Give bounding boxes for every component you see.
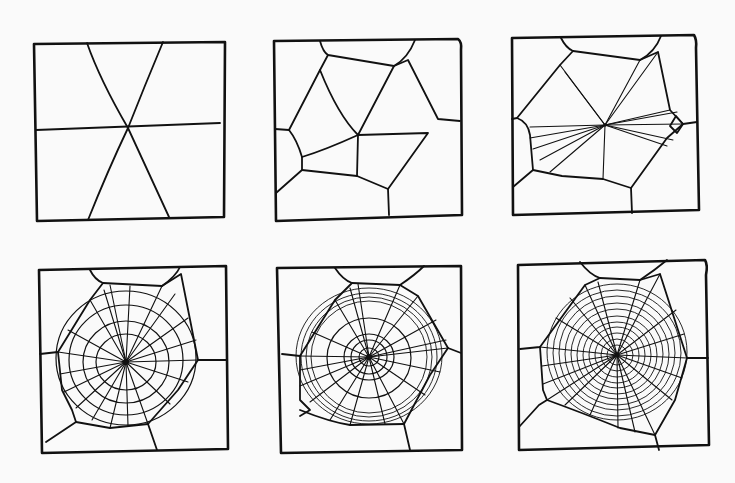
web-construction-figure	[0, 0, 735, 483]
panel-4-radii	[58, 285, 198, 428]
panel-1-initial-radii	[34, 42, 225, 221]
panel-6-completed-web	[518, 260, 709, 450]
illustration-canvas	[0, 0, 735, 483]
panel-2-frame-threads	[274, 39, 462, 221]
panel-4-temporary-spiral	[39, 266, 228, 453]
panel-5-sticky-spiral	[277, 266, 462, 453]
panel-6-spiral	[547, 284, 687, 420]
panel-6-radii	[540, 274, 687, 435]
panel-3-adding-radii	[512, 35, 699, 215]
